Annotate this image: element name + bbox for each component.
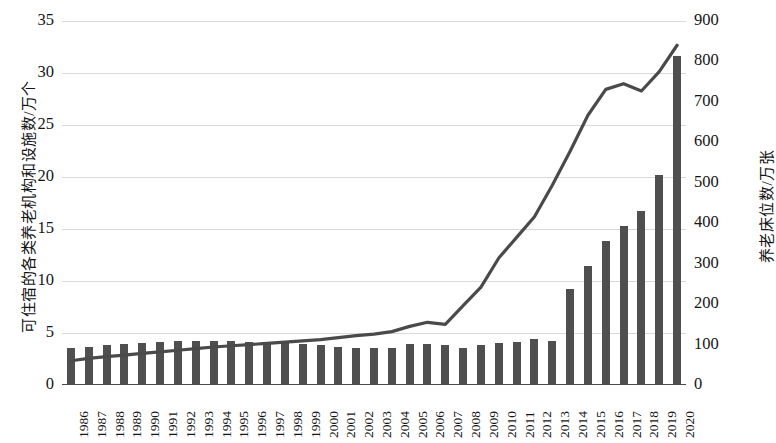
x-axis-tick-label: 1998: [290, 411, 306, 438]
y-axis-right-tick-label: 900: [694, 10, 719, 30]
x-axis-tick-label: 1986: [76, 411, 92, 438]
x-axis-tick-label: 2013: [557, 411, 573, 438]
y-axis-right-tick-label: 300: [694, 253, 719, 273]
y-axis-right-tick-label: 800: [694, 50, 719, 70]
x-axis-tick-labels: 1986198719881989199019911992199319941995…: [62, 388, 686, 443]
x-axis-tick-label: 2010: [504, 411, 520, 438]
x-axis-tick-label: 1993: [201, 411, 217, 438]
x-axis-tick-label: 2005: [415, 411, 431, 438]
y-axis-left-tick-label: 35: [38, 10, 55, 30]
x-axis-tick-label: 2001: [343, 411, 359, 438]
x-axis-tick-label: 2020: [682, 411, 698, 438]
y-axis-right-ticks: 0100200300400500600700800900: [694, 21, 740, 385]
y-axis-left-tick-label: 15: [38, 218, 55, 238]
x-axis-tick-label: 2014: [575, 411, 591, 438]
y-axis-right-tick-label: 100: [694, 334, 719, 354]
x-axis-tick-label: 1997: [272, 411, 288, 438]
y-axis-right-tick-label: 600: [694, 131, 719, 151]
y-axis-right-tick-label: 400: [694, 212, 719, 232]
x-axis-tick-label: 2007: [450, 411, 466, 438]
y-axis-right-tick-label: 500: [694, 172, 719, 192]
x-axis-tick-label: 1989: [129, 411, 145, 438]
y-axis-left-tick-label: 10: [38, 270, 55, 290]
line-series-path: [71, 45, 677, 360]
y-axis-right-tick-label: 200: [694, 293, 719, 313]
x-axis-tick-label: 1992: [183, 411, 199, 438]
x-axis-tick-label: 1987: [94, 411, 110, 438]
x-axis-tick-label: 1990: [147, 411, 163, 438]
x-axis-tick-label: 2016: [611, 411, 627, 438]
y-axis-left-ticks: 05101520253035: [14, 21, 54, 385]
x-axis-tick-label: 2017: [629, 411, 645, 438]
x-axis-tick-label: 1994: [219, 411, 235, 438]
x-axis-tick-label: 2006: [432, 411, 448, 438]
x-axis-tick-label: 2012: [539, 411, 555, 438]
x-axis-tick-label: 1999: [308, 411, 324, 438]
x-axis-tick-label: 1995: [236, 411, 252, 438]
x-axis-line: [62, 384, 686, 386]
y-axis-right-title: 养老床位数/万张: [755, 42, 776, 372]
y-axis-left-tick-label: 30: [38, 62, 55, 82]
x-axis-tick-label: 2002: [361, 411, 377, 438]
x-axis-tick-label: 2015: [593, 411, 609, 438]
x-axis-tick-label: 2018: [646, 411, 662, 438]
x-axis-tick-label: 2004: [397, 411, 413, 438]
y-axis-left-tick-label: 0: [46, 374, 54, 394]
x-axis-tick-label: 1988: [112, 411, 128, 438]
x-axis-tick-label: 2011: [522, 412, 538, 439]
plot-area: [62, 21, 686, 385]
x-axis-tick-label: 2019: [664, 411, 680, 438]
x-axis-tick-label: 2003: [379, 411, 395, 438]
x-axis-tick-label: 2008: [468, 411, 484, 438]
line-series: [62, 21, 686, 385]
y-axis-right-tick-label: 0: [694, 374, 702, 394]
y-axis-right-tick-label: 700: [694, 91, 719, 111]
y-axis-left-tick-label: 20: [38, 166, 55, 186]
x-axis-tick-label: 2009: [486, 411, 502, 438]
x-axis-tick-label: 1996: [254, 411, 270, 438]
x-axis-tick-label: 2000: [326, 411, 342, 438]
y-axis-left-tick-label: 25: [38, 114, 55, 134]
x-axis-tick-label: 1991: [165, 411, 181, 438]
y-axis-left-tick-label: 5: [46, 322, 54, 342]
